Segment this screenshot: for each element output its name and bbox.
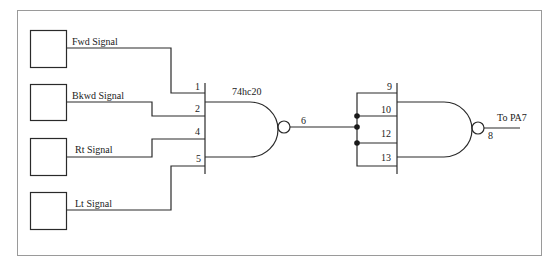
junction-dot — [354, 113, 360, 119]
gate1-part-label: 74hc20 — [232, 86, 261, 97]
gate1-pin-1: 1 — [195, 81, 200, 92]
junction-dot — [354, 124, 360, 130]
input-label-bkwd: Bkwd Signal — [72, 90, 124, 101]
gate1-pin-2: 2 — [195, 103, 200, 114]
diagram-frame — [18, 11, 542, 256]
output-label-to-pa7: To PA7 — [497, 112, 527, 123]
gate1-pin-5: 5 — [196, 153, 201, 164]
junction-dot — [354, 140, 360, 146]
gate2-pin-13: 13 — [381, 152, 391, 163]
gate1-pin-6: 6 — [301, 115, 306, 126]
circuit-diagram: Fwd Signal Bkwd Signal Rt Signal Lt Sign… — [0, 0, 557, 269]
gate2-pin-8: 8 — [488, 130, 493, 141]
gate2-pin-10: 10 — [381, 104, 391, 115]
input-label-fwd: Fwd Signal — [72, 36, 118, 47]
input-label-rt: Rt Signal — [75, 144, 113, 155]
gate2-pin-12: 12 — [381, 128, 391, 139]
gate1-pin-4: 4 — [195, 126, 200, 137]
input-label-lt: Lt Signal — [75, 198, 112, 209]
gate2-pin-9: 9 — [387, 81, 392, 92]
